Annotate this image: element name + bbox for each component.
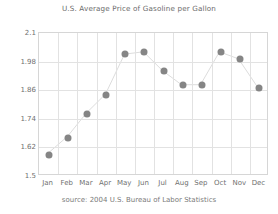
data-point bbox=[64, 134, 71, 141]
chart-title: U.S. Average Price of Gasoline per Gallo… bbox=[0, 4, 278, 13]
x-tick-label: Jun bbox=[138, 179, 149, 187]
x-tick-label: Apr bbox=[99, 179, 111, 187]
gridline-horizontal bbox=[39, 62, 267, 63]
data-point bbox=[256, 84, 263, 91]
gasoline-price-chart: U.S. Average Price of Gasoline per Gallo… bbox=[0, 0, 278, 214]
gridline-horizontal bbox=[39, 147, 267, 148]
y-tick-label: 1.5 bbox=[2, 172, 36, 180]
x-tick-label: Feb bbox=[61, 179, 73, 187]
data-point bbox=[237, 56, 244, 63]
gridline-vertical bbox=[173, 33, 174, 174]
gridline-vertical bbox=[231, 33, 232, 174]
data-point bbox=[141, 49, 148, 56]
series-line bbox=[39, 33, 267, 174]
gridline-vertical bbox=[58, 33, 59, 174]
gridline-vertical bbox=[250, 33, 251, 174]
data-point bbox=[160, 68, 167, 75]
data-point bbox=[83, 111, 90, 118]
y-axis: 1.51.621.741.861.982.1 bbox=[0, 32, 36, 175]
x-tick-label: Dec bbox=[252, 179, 266, 187]
gridline-vertical bbox=[192, 33, 193, 174]
y-tick-label: 2.1 bbox=[2, 29, 36, 37]
x-tick-label: Jul bbox=[158, 179, 166, 187]
gridline-horizontal bbox=[39, 119, 267, 120]
x-axis: JanFebMarAprMayJunJulAugSepOctNovDec bbox=[38, 179, 268, 191]
data-point bbox=[179, 82, 186, 89]
plot-area bbox=[38, 32, 268, 175]
gridline-horizontal bbox=[39, 90, 267, 91]
x-tick-label: Sep bbox=[194, 179, 207, 187]
y-tick-label: 1.62 bbox=[2, 143, 36, 151]
x-tick-label: Nov bbox=[232, 179, 246, 187]
x-tick-label: May bbox=[117, 179, 131, 187]
x-tick-label: Mar bbox=[79, 179, 92, 187]
data-point bbox=[122, 51, 129, 58]
y-tick-label: 1.86 bbox=[2, 86, 36, 94]
x-tick-label: Jan bbox=[42, 179, 53, 187]
source-note: source: 2004 U.S. Bureau of Labor Statis… bbox=[0, 196, 278, 204]
x-tick-label: Oct bbox=[214, 179, 226, 187]
gridline-vertical bbox=[135, 33, 136, 174]
gridline-vertical bbox=[97, 33, 98, 174]
x-tick-label: Aug bbox=[175, 179, 189, 187]
gridline-vertical bbox=[77, 33, 78, 174]
data-point bbox=[103, 91, 110, 98]
y-tick-label: 1.98 bbox=[2, 58, 36, 66]
data-point bbox=[218, 49, 225, 56]
gridline-vertical bbox=[116, 33, 117, 174]
gridline-vertical bbox=[154, 33, 155, 174]
data-point bbox=[45, 151, 52, 158]
y-tick-label: 1.74 bbox=[2, 115, 36, 123]
gridline-vertical bbox=[212, 33, 213, 174]
data-point bbox=[198, 82, 205, 89]
